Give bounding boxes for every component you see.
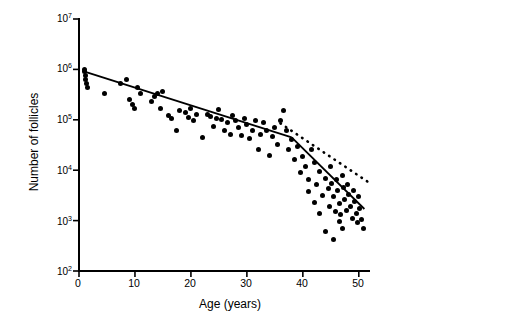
- data-point: [264, 128, 269, 133]
- data-point: [124, 77, 129, 82]
- data-point: [239, 133, 244, 138]
- data-point: [186, 115, 191, 120]
- data-point: [345, 182, 350, 187]
- data-point: [214, 116, 219, 121]
- data-point: [272, 125, 277, 130]
- x-tick-label-0: 0: [68, 277, 88, 289]
- y-tick-label-1e7: 107: [28, 12, 72, 24]
- data-point: [261, 120, 266, 125]
- data-point: [267, 153, 272, 158]
- data-point: [333, 209, 338, 214]
- data-point: [331, 194, 336, 199]
- data-point: [219, 117, 224, 122]
- data-point: [348, 204, 353, 209]
- data-point: [334, 177, 339, 182]
- data-point: [312, 200, 317, 205]
- x-tick-label-30: 30: [236, 277, 256, 289]
- data-point: [236, 125, 241, 130]
- data-point: [289, 137, 294, 142]
- data-point: [247, 136, 252, 141]
- data-point: [118, 81, 123, 86]
- data-point: [352, 199, 357, 204]
- x-tick-label-20: 20: [180, 277, 200, 289]
- data-point: [132, 106, 137, 111]
- data-point: [361, 226, 366, 231]
- data-point: [340, 226, 345, 231]
- data-point: [158, 106, 163, 111]
- data-point: [102, 91, 107, 96]
- data-point: [270, 134, 275, 139]
- data-point: [244, 122, 249, 127]
- x-tick-label-40: 40: [292, 277, 312, 289]
- data-point: [200, 135, 205, 140]
- data-point: [306, 177, 311, 182]
- data-point: [326, 186, 331, 191]
- data-point: [298, 170, 303, 175]
- data-point: [300, 154, 305, 159]
- data-point: [233, 118, 238, 123]
- data-point: [275, 142, 280, 147]
- tick-marks: [73, 19, 359, 277]
- data-point: [242, 116, 247, 121]
- data-point: [335, 188, 340, 193]
- data-point: [328, 164, 333, 169]
- data-point: [228, 132, 233, 137]
- follicle-decline-scatter-chart: 107 106 105 104 103 102 0 10 20 30 40 50…: [0, 0, 509, 327]
- data-point: [337, 219, 342, 224]
- data-point: [225, 120, 230, 125]
- data-point: [208, 114, 213, 119]
- data-point: [286, 147, 291, 152]
- data-point: [354, 211, 359, 216]
- data-point: [340, 173, 345, 178]
- data-point: [281, 108, 286, 113]
- x-tick-label-50: 50: [348, 277, 368, 289]
- x-axis-line: [78, 270, 370, 272]
- data-point: [337, 201, 342, 206]
- data-point: [149, 99, 154, 104]
- data-point: [303, 164, 308, 169]
- data-point: [350, 216, 355, 221]
- data-point: [174, 128, 179, 133]
- data-point: [317, 169, 322, 174]
- data-point: [317, 211, 322, 216]
- data-point: [314, 182, 319, 187]
- y-axis-line: [78, 18, 80, 272]
- data-point: [188, 106, 193, 111]
- data-point: [329, 181, 334, 186]
- data-point: [253, 118, 258, 123]
- data-point: [359, 217, 364, 222]
- data-point: [284, 128, 289, 133]
- data-point: [306, 189, 311, 194]
- x-axis-title: Age (years): [140, 297, 320, 311]
- data-point: [258, 132, 263, 137]
- data-point: [295, 144, 300, 149]
- data-point: [155, 91, 160, 96]
- y-axis-title: Number of follicles: [27, 52, 41, 232]
- data-point: [278, 118, 283, 123]
- data-point: [191, 118, 196, 123]
- y-tick-label-1e2: 102: [28, 265, 72, 277]
- data-point: [222, 128, 227, 133]
- data-point: [327, 204, 332, 209]
- data-point: [320, 193, 325, 198]
- data-point: [323, 229, 328, 234]
- x-tick-label-10: 10: [124, 277, 144, 289]
- data-point: [138, 91, 143, 96]
- data-point: [160, 89, 165, 94]
- data-point: [183, 110, 188, 115]
- data-point: [194, 112, 199, 117]
- data-point: [346, 192, 351, 197]
- data-point: [323, 176, 328, 181]
- data-point: [351, 188, 356, 193]
- data-point: [177, 108, 182, 113]
- data-point: [309, 147, 314, 152]
- data-point: [312, 160, 317, 165]
- data-point: [85, 85, 90, 90]
- data-point: [250, 128, 255, 133]
- data-point: [135, 85, 140, 90]
- data-point: [292, 157, 297, 162]
- data-point: [357, 206, 362, 211]
- data-point: [356, 194, 361, 199]
- data-point: [211, 124, 216, 129]
- data-point: [216, 107, 221, 112]
